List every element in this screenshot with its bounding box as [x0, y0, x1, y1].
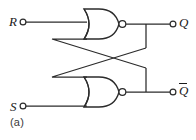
nor-gate-top-bubble-icon — [119, 21, 126, 28]
wire-feedback-q-cross — [52, 48, 146, 77]
nor-gate-bottom-bubble-icon — [119, 89, 126, 96]
output-label-q: Q — [179, 16, 188, 29]
terminal-q-icon[interactable] — [170, 21, 176, 27]
circuit-schematic — [0, 0, 196, 140]
output-label-qbar-text: Q — [179, 83, 188, 97]
input-label-s: S — [10, 100, 17, 113]
output-label-qbar: Q — [179, 83, 188, 97]
wire-feedback-qbar-cross — [52, 39, 146, 68]
terminal-s-icon[interactable] — [20, 103, 26, 109]
terminal-qbar-icon[interactable] — [170, 89, 176, 95]
figure-caption: (a) — [10, 117, 24, 128]
terminal-r-icon[interactable] — [20, 19, 26, 25]
input-label-r: R — [9, 15, 17, 28]
figure-nor-sr-latch: R S Q Q (a) — [0, 0, 196, 140]
